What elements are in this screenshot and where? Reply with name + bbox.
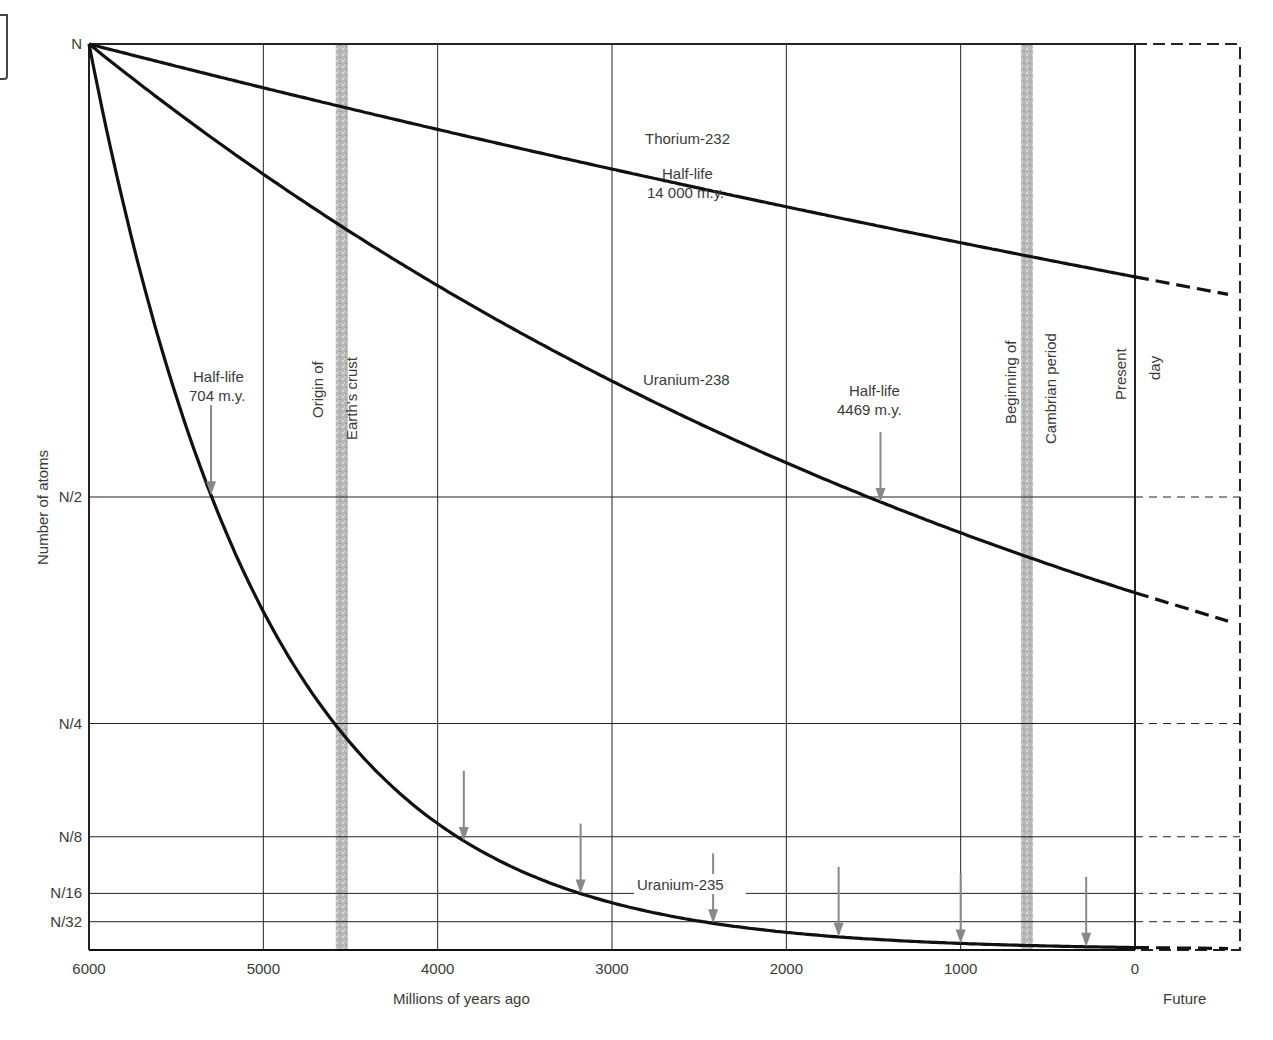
y-tick-label: N/4	[59, 715, 82, 732]
y-tick-label: N/32	[50, 913, 82, 930]
uranium-235-label: Uranium-235	[637, 876, 724, 893]
future-label: Future	[1163, 990, 1206, 1007]
x-axis-label: Millions of years ago	[393, 990, 530, 1007]
arrow-head	[956, 929, 966, 943]
x-tick-label: 1000	[944, 960, 977, 977]
y-tick-label: N	[71, 35, 82, 52]
decay-chart: 6000500040003000200010000NN/2N/4N/8N/16N…	[0, 0, 1273, 1040]
origin-crust-label-2: Earth's crust	[343, 356, 360, 440]
x-tick-label: 4000	[421, 960, 454, 977]
y-tick-label: N/8	[59, 828, 82, 845]
decay-curves	[89, 44, 1228, 949]
cambrian-label-1: Beginning of	[1002, 340, 1019, 424]
present-day-label-2: day	[1146, 355, 1163, 380]
thorium-232-label: Thorium-232	[645, 130, 730, 147]
x-tick-label: 0	[1131, 960, 1139, 977]
y-axis-label: Number of atoms	[34, 450, 51, 565]
u238-halflife-label: Half-life	[849, 382, 900, 399]
future-region	[1135, 44, 1240, 950]
x-tick-label: 3000	[595, 960, 628, 977]
u235-halflife-label: Half-life	[193, 368, 244, 385]
x-tick-label: 5000	[247, 960, 280, 977]
y-tick-label: N/2	[59, 488, 82, 505]
curve-future-uranium-238	[1135, 593, 1228, 621]
x-tick-label: 2000	[770, 960, 803, 977]
curve-future-thorium-232	[1135, 277, 1228, 295]
grid-lines	[89, 44, 1135, 950]
thorium-halflife-value: 14 000 m.y.	[647, 184, 724, 201]
cambrian-label-2: Cambrian period	[1042, 333, 1059, 444]
thorium-halflife-label: Half-life	[662, 165, 713, 182]
present-day-label-1: Present	[1112, 347, 1129, 400]
x-tick-label: 6000	[72, 960, 105, 977]
arrow-head	[834, 923, 844, 937]
uranium-238-label: Uranium-238	[643, 371, 730, 388]
arrow-head	[1081, 933, 1091, 947]
y-tick-label: N/16	[50, 884, 82, 901]
curve-future-uranium-235	[1135, 948, 1228, 949]
origin-crust-label-1: Origin of	[309, 360, 326, 418]
u235-halflife-value: 704 m.y.	[189, 387, 245, 404]
u238-halflife-value: 4469 m.y.	[837, 401, 902, 418]
